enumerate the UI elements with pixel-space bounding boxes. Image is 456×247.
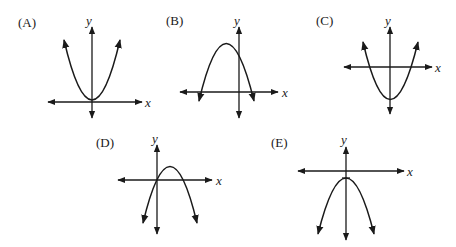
y-label-a: y (84, 13, 92, 28)
parabola-d (143, 167, 197, 224)
x-label-a: x (144, 95, 151, 110)
y-label-e: y (339, 132, 347, 147)
x-label-c: x (434, 60, 441, 75)
y-label-c: y (383, 13, 391, 28)
x-label-e: x (406, 164, 413, 179)
x-label-d: x (215, 173, 222, 188)
y-label-d: y (150, 131, 158, 146)
graph-c: y x (344, 13, 441, 114)
x-label-b: x (281, 85, 288, 100)
graph-a: y x (48, 13, 151, 118)
graph-e: y x (298, 132, 413, 240)
graph-b: y x (180, 13, 288, 118)
graphs-canvas: y x y x y x y x (0, 0, 456, 247)
answer-choice-graphs: (A) (B) (C) (D) (E) y x y x (0, 0, 456, 247)
graph-d: y x (118, 131, 222, 234)
y-label-b: y (232, 13, 240, 28)
